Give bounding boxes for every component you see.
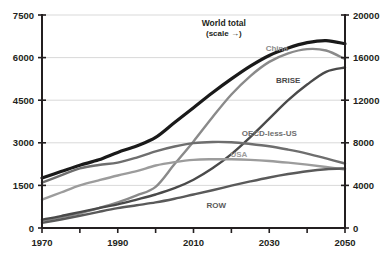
x-tick-label: 2050: [334, 237, 355, 248]
series-label-brise: BRISE: [276, 76, 301, 85]
x-tick-label: 2010: [183, 237, 204, 248]
chart-container: 0150030004500600075000400080001200016000…: [0, 0, 389, 257]
left-tick-label: 1500: [13, 180, 34, 191]
right-tick-label: 8000: [353, 137, 374, 148]
series-scale-annotation: (scale →): [206, 29, 242, 38]
right-tick-label: 0: [353, 223, 358, 234]
gridlines: [42, 15, 345, 228]
left-tick-label: 6000: [13, 52, 34, 63]
x-tick-label: 1990: [107, 237, 128, 248]
series-label-china: China: [266, 44, 289, 53]
series-label-oecd-less-us: OECD-less-US: [242, 129, 298, 138]
left-tick-label: 4500: [13, 95, 34, 106]
left-tick-label: 3000: [13, 137, 34, 148]
x-tick-label: 1970: [31, 237, 52, 248]
right-tick-label: 12000: [353, 95, 379, 106]
x-tick-label: 2030: [259, 237, 280, 248]
series-line-world-total: [42, 41, 345, 178]
tick-labels: 0150030004500600075000400080001200016000…: [13, 10, 380, 249]
right-tick-label: 16000: [353, 52, 379, 63]
left-tick-label: 7500: [13, 10, 34, 21]
series-line-row: [42, 168, 345, 223]
series-lines: [42, 41, 345, 223]
series-label-row: ROW: [206, 201, 226, 210]
line-chart: 0150030004500600075000400080001200016000…: [0, 0, 389, 257]
axes: [38, 14, 349, 233]
right-tick-label: 4000: [353, 180, 374, 191]
left-tick-label: 0: [29, 223, 34, 234]
series-label-usa: USA: [231, 150, 248, 159]
series-label-world-total: World total: [202, 18, 246, 28]
right-tick-label: 20000: [353, 10, 379, 21]
